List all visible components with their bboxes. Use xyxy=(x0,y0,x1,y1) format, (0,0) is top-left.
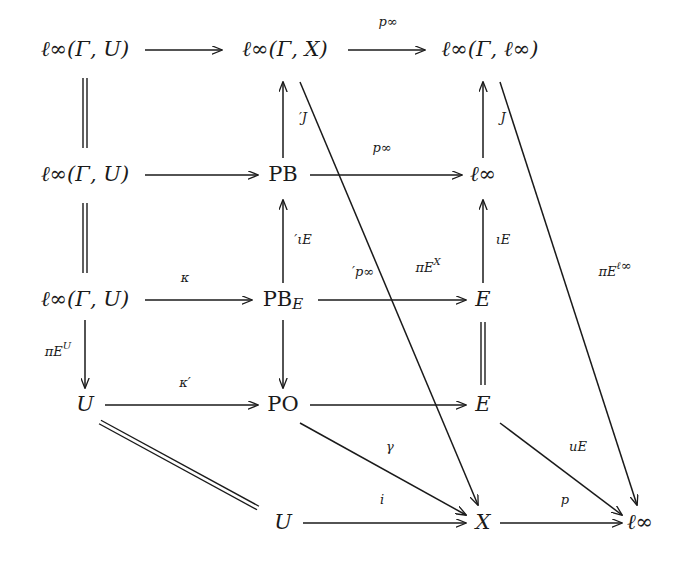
diagram-node: ℓ∞(Γ, U) xyxy=(41,37,129,61)
diagram-node: ℓ∞(Γ, X) xyxy=(242,37,328,61)
edge-label: J xyxy=(497,110,506,125)
edge-label: γ xyxy=(386,439,394,454)
equality-edge xyxy=(481,322,485,385)
edge-label: ιE xyxy=(496,232,511,247)
arrow-edges xyxy=(85,50,637,523)
edge-label: κ xyxy=(180,270,190,285)
edge-label: πEℓ∞ xyxy=(597,258,631,279)
diagram-node: ℓ∞(Γ, ℓ∞) xyxy=(442,37,539,61)
equality-edge xyxy=(83,78,87,148)
edge-labels: p∞′JJp∞′ιEιEκ′p∞πEXπEℓ∞πEUκ′γuEip xyxy=(44,14,632,507)
diagram-node: PO xyxy=(267,392,298,416)
edge-label: πEU xyxy=(44,340,72,359)
edge-label: πEX xyxy=(414,256,441,275)
diagram-node: U xyxy=(274,510,293,534)
edge-label: p xyxy=(561,492,570,507)
edge-label: ′p∞ xyxy=(352,264,374,279)
diagram-node: ℓ∞(Γ, U) xyxy=(41,287,129,311)
edge-label: uE xyxy=(569,439,587,454)
diagram-nodes: ℓ∞(Γ, U)ℓ∞(Γ, X)ℓ∞(Γ, ℓ∞)ℓ∞(Γ, U)PBℓ∞ℓ∞(… xyxy=(41,37,653,534)
diagram-node: ℓ∞ xyxy=(470,162,496,186)
diagram-canvas: ℓ∞(Γ, U)ℓ∞(Γ, X)ℓ∞(Γ, ℓ∞)ℓ∞(Γ, U)PBℓ∞ℓ∞(… xyxy=(0,0,700,562)
diagram-node: PBE xyxy=(263,287,304,314)
diagram-node: U xyxy=(76,392,95,416)
diagram-node: E xyxy=(474,392,490,416)
commutative-diagram: ℓ∞(Γ, U)ℓ∞(Γ, X)ℓ∞(Γ, ℓ∞)ℓ∞(Γ, U)PBℓ∞ℓ∞(… xyxy=(0,0,700,562)
edge-label: ′J xyxy=(299,110,308,125)
diagram-node: X xyxy=(474,510,492,534)
diagram-node: ℓ∞ xyxy=(627,510,653,534)
edge-label: i xyxy=(380,492,384,507)
edge-label: p∞ xyxy=(372,140,391,155)
diagram-node: E xyxy=(474,287,490,311)
diagram-node: PB xyxy=(268,162,298,186)
edge-label: κ′ xyxy=(178,375,191,390)
equality-edge xyxy=(99,420,259,510)
diagram-node: ℓ∞(Γ, U) xyxy=(41,162,129,186)
edge-label: ′ιE xyxy=(294,232,312,247)
equality-edge xyxy=(83,203,87,273)
edge-label: p∞ xyxy=(378,14,397,29)
